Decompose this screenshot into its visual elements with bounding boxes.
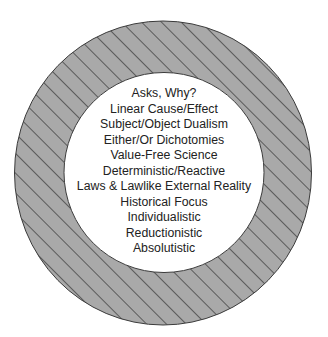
list-item: Reductionistic [64, 226, 264, 242]
list-item: Either/Or Dichotomies [64, 133, 264, 149]
list-item: Historical Focus [64, 195, 264, 211]
list-item: Subject/Object Dualism [64, 117, 264, 133]
list-item: Individualistic [64, 210, 264, 226]
list-item: Deterministic/Reactive [64, 164, 264, 180]
list-item: Absolutistic [64, 241, 264, 257]
list-item: Value-Free Science [64, 148, 264, 164]
list-item: Linear Cause/Effect [64, 102, 264, 118]
list-item: Asks, Why? [64, 86, 264, 102]
characteristics-list: Asks, Why? Linear Cause/Effect Subject/O… [64, 86, 264, 257]
list-item: Laws & Lawlike External Reality [64, 179, 264, 195]
